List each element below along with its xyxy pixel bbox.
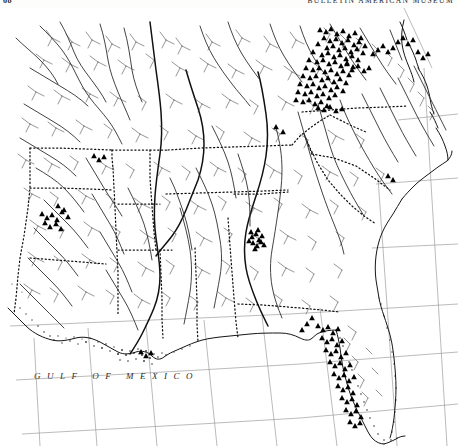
book-page: 68 BULLETIN AMERICAN MUSEUM — [0, 0, 458, 446]
gulf-of-mexico-label: GULF OF MEXICO — [34, 371, 199, 381]
page-number: 68 — [3, 0, 12, 5]
running-head-title: BULLETIN AMERICAN MUSEUM — [307, 0, 454, 5]
running-header: 68 BULLETIN AMERICAN MUSEUM — [0, 0, 458, 7]
